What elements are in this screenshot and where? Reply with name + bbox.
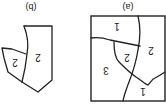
panel-a-boundary-horizontal [91, 38, 140, 46]
region-label: 2 [12, 57, 18, 68]
panel-b-caption: (b) [25, 2, 36, 12]
region-label: 1 [114, 21, 120, 32]
region-label: 2 [35, 52, 41, 63]
map-coloring-diagram: (a) 1 2 2 3 1 (b) 2 2 [0, 0, 166, 106]
region-label: 1 [140, 86, 146, 97]
panel-a: (a) 1 2 2 3 1 [91, 2, 165, 101]
region-label: 2 [148, 45, 154, 56]
region-label: 3 [103, 65, 109, 76]
panel-a-boundary-inner [114, 42, 165, 85]
panel-a-caption: (a) [122, 2, 133, 12]
panel-b: (b) 2 2 [2, 2, 52, 92]
region-label: 2 [124, 52, 130, 63]
